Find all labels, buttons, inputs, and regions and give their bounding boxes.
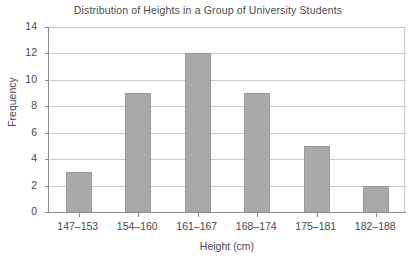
bar: [244, 93, 270, 212]
gridline: [49, 80, 406, 81]
x-axis-title: Height (cm): [48, 240, 406, 252]
bar: [125, 93, 151, 212]
y-tick-mark: [45, 186, 49, 187]
bar: [66, 172, 92, 212]
y-tick-mark: [45, 53, 49, 54]
x-tick-mark: [376, 213, 377, 217]
gridline: [49, 159, 406, 160]
gridline: [49, 53, 406, 54]
gridline: [49, 27, 406, 28]
plot-area: 02468101214: [48, 27, 406, 213]
y-tick-mark: [45, 80, 49, 81]
y-tick-mark: [45, 106, 49, 107]
y-tick-label: 0: [0, 206, 37, 217]
bar: [304, 146, 330, 212]
x-tick-mark: [138, 213, 139, 217]
x-tick-mark: [79, 213, 80, 217]
x-tick-label: 182–188: [340, 220, 410, 232]
y-tick-label: 4: [0, 153, 37, 164]
x-tick-mark: [257, 213, 258, 217]
y-tick-label: 6: [0, 127, 37, 138]
y-tick-mark: [45, 159, 49, 160]
y-tick-mark: [45, 212, 49, 213]
chart-title: Distribution of Heights in a Group of Un…: [0, 4, 416, 16]
x-tick-mark: [198, 213, 199, 217]
y-tick-label: 10: [0, 74, 37, 85]
y-tick-label: 8: [0, 100, 37, 111]
x-tick-mark: [317, 213, 318, 217]
gridline: [49, 133, 406, 134]
y-tick-label: 2: [0, 180, 37, 191]
y-tick-mark: [45, 133, 49, 134]
y-tick-label: 14: [0, 21, 37, 32]
bar: [363, 186, 389, 212]
gridline: [49, 106, 406, 107]
bar-chart-figure: Distribution of Heights in a Group of Un…: [0, 0, 416, 261]
bar: [185, 53, 211, 212]
gridline: [49, 186, 406, 187]
y-tick-label: 12: [0, 47, 37, 58]
y-tick-mark: [45, 27, 49, 28]
